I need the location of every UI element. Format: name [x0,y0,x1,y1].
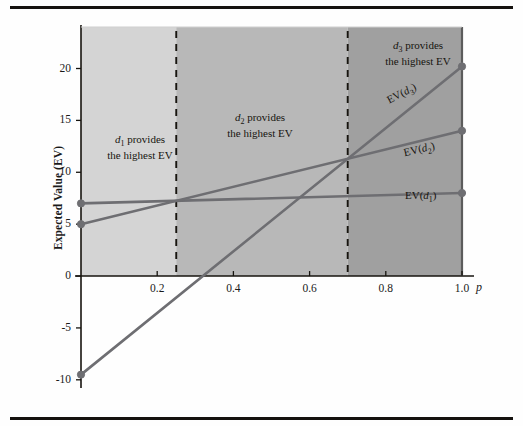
y-axis-title: Expected Value (EV) [52,146,65,250]
region-note-line2: the highest EV [227,127,292,139]
data-point-evd2-0 [77,221,84,228]
region-note-line1: d1 provides [115,133,165,145]
y-tick-label-20: 20 [45,62,71,75]
data-point-evd2-1 [458,127,465,134]
region-note-line1: d3 provides [393,39,443,51]
series-label-ev-d1: EV(d1) [405,189,437,205]
y-tick-label--10: -10 [45,373,71,386]
region-note-d2: d2 providesthe highest EV [205,111,315,139]
data-point-evd3-0 [77,371,84,378]
region-note-line2: the highest EV [385,55,450,67]
y-tick-label-0: 0 [45,269,71,282]
x-tick-label-0.6: 0.6 [290,282,330,295]
x-tick-label-0.4: 0.4 [213,282,253,295]
x-tick-label-0.8: 0.8 [366,282,406,295]
x-tick-label-0.2: 0.2 [137,282,177,295]
region-note-line1: d2 provides [235,111,285,123]
region-note-line2: the highest EV [107,149,172,161]
y-tick-label--5: -5 [45,321,71,334]
region-note-d3: d3 providesthe highest EV [363,39,473,67]
data-point-evd1-1 [458,189,465,196]
figure-container: 20151050-5-10 0.20.40.60.81.0 Expected V… [0,0,523,426]
region-note-d1: d1 providesthe highest EV [88,133,192,161]
x-axis-title: p [476,281,482,294]
data-point-evd1-0 [77,200,84,207]
y-tick-label-15: 15 [45,113,71,126]
region-band-2 [176,27,347,276]
